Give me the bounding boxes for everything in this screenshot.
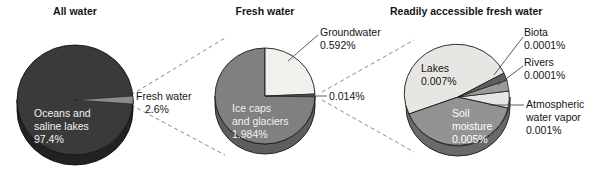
- pie1-label-fresh-water: Fresh water: [136, 90, 192, 102]
- pie3-value-atmospheric-water-vapor: 0.001%: [526, 124, 562, 136]
- pie3-value-lakes: 0.007%: [421, 75, 457, 87]
- pie1-label-oceans-line2: saline lakes: [34, 120, 89, 132]
- pie3-label-rivers: Rivers: [524, 56, 554, 68]
- pie2-label-ice-caps-line2: and glaciers: [232, 115, 289, 127]
- pie3-value-soil-moisture: 0.005%: [452, 133, 488, 145]
- pie2-value-ice-caps: 1.984%: [232, 128, 268, 140]
- pie2-title: Fresh water: [236, 5, 295, 17]
- pie2-value-groundwater: 0.592%: [320, 39, 356, 51]
- pie2-label-groundwater: Groundwater: [320, 26, 381, 38]
- pie3-value-biota: 0.0001%: [524, 39, 565, 51]
- pie-chart-fresh-water: Fresh water Groundwater 0.592% Ice caps …: [215, 5, 381, 154]
- pie2-slice-groundwater: [265, 48, 315, 96]
- pie2-label-ice-caps-line1: Ice caps: [232, 102, 271, 114]
- pie3-label-soil-line1: Soil: [452, 107, 470, 119]
- pie2-leader-groundwater: [288, 35, 318, 61]
- pie2-value-readily-accessible: 0.014%: [329, 90, 365, 102]
- pie3-value-rivers: 0.0001%: [524, 69, 565, 81]
- pie3-label-atm-line1: Atmospheric: [526, 98, 584, 110]
- pie3-label-biota: Biota: [524, 26, 548, 38]
- pie3-label-soil-line2: moisture: [452, 120, 492, 132]
- pie3-title: Readily accessible fresh water: [390, 5, 542, 17]
- pie1-title: All water: [53, 5, 97, 17]
- pie3-label-lakes: Lakes: [421, 62, 449, 74]
- pie1-value-fresh-water: 2.6%: [145, 103, 169, 115]
- pie-chart-all-water: All water Oceans and saline lakes 97.4% …: [17, 5, 192, 165]
- pie-chart-readily-accessible-fresh-water: Readily accessible fresh water Biota 0.0…: [390, 5, 584, 156]
- pie1-label-oceans-line1: Oceans and: [34, 107, 91, 119]
- pie1-value-oceans: 97.4%: [34, 133, 64, 145]
- pie3-label-atm-line2: water vapor: [525, 111, 581, 123]
- water-distribution-figure: All water Oceans and saline lakes 97.4% …: [0, 0, 610, 184]
